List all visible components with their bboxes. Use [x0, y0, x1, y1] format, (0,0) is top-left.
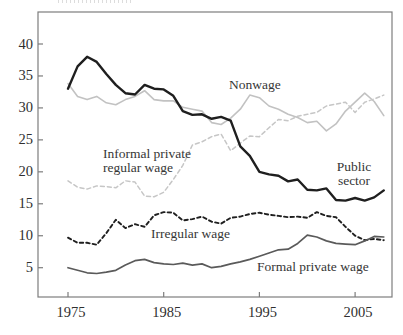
y-tick-label: 15	[19, 195, 34, 211]
public-sector-label: Public sector	[337, 160, 372, 188]
series-line-nonwage	[68, 84, 384, 131]
plot-frame	[38, 12, 392, 297]
nonwage-label: Nonwage	[229, 78, 281, 92]
y-tick-label: 10	[19, 227, 34, 243]
irregular-wage-label: Irregular wage	[151, 227, 230, 241]
y-tick-label: 25	[19, 131, 34, 147]
chart-figure: 5101520253035401975198519952005 NonwageI…	[0, 0, 403, 335]
x-tick-label: 2005	[344, 304, 373, 320]
y-tick-label: 5	[26, 259, 33, 275]
x-tick-label: 1995	[248, 304, 277, 320]
x-tick-label: 1975	[57, 304, 86, 320]
y-tick-label: 30	[19, 99, 34, 115]
x-tick-label: 1985	[152, 304, 181, 320]
y-tick-label: 35	[19, 67, 34, 83]
y-tick-label: 20	[19, 163, 34, 179]
informal-private-regular-wage-label: Informal private regular wage	[103, 147, 191, 175]
formal-private-wage-label: Formal private wage	[257, 260, 369, 274]
y-tick-label: 40	[19, 36, 34, 52]
